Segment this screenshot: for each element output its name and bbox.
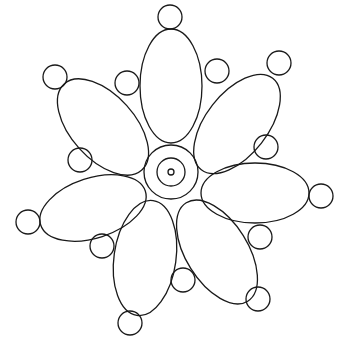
accent-circle [205,59,229,83]
accent-circle [43,65,67,89]
accent-circle [267,51,291,75]
center-outer-ring [144,145,198,199]
flower-drawing [0,0,338,358]
accent-circle [246,287,270,311]
petal [177,59,297,189]
accent-circle [158,5,182,29]
accent-circle [118,311,142,335]
center-dot [168,169,174,175]
petal [40,62,165,191]
petal [201,163,309,223]
accent-circle [90,234,114,258]
accent-circle [309,184,333,208]
accent-circle [16,210,40,234]
accent-circle [68,148,92,172]
flower-svg [0,0,338,358]
petal [140,29,202,143]
accent-circle [248,225,272,249]
accent-circle [171,268,195,292]
petal [106,196,184,319]
center-inner-ring [157,158,185,186]
accent-circle [115,71,139,95]
petal [31,162,154,253]
